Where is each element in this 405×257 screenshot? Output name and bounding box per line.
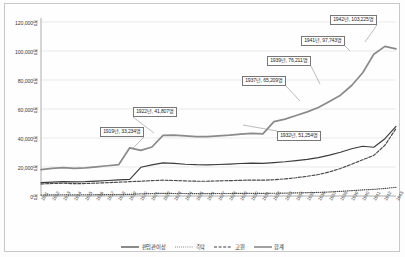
legend-item[interactable]: 고원 xyxy=(214,243,244,251)
legend-swatch-solid-thick xyxy=(254,244,272,250)
annotation-1939: 1939년, 76,211명 xyxy=(267,56,311,66)
annotation-leader xyxy=(133,137,144,148)
annotation-leader xyxy=(286,86,300,101)
legend-label: 판임관이상 xyxy=(142,243,167,251)
legend-swatch-dotted xyxy=(175,244,193,250)
annotation-1922: 1922년, 41,807명 xyxy=(133,107,177,117)
series-line xyxy=(41,129,396,184)
annotation-1919: 1919년, 33,234명 xyxy=(100,127,144,137)
legend-swatch-dashed xyxy=(214,244,232,250)
legend-swatch-solid-thin xyxy=(121,244,139,250)
legend-item[interactable]: 합계 xyxy=(254,243,284,251)
annotation-leader xyxy=(243,125,277,131)
legend-item[interactable]: 촉탁 xyxy=(175,243,205,251)
chart-container: 0명20,000명40,000명60,000명80,000명100,000명12… xyxy=(0,0,405,257)
legend-label: 고원 xyxy=(235,243,245,251)
annotation-leader xyxy=(311,66,320,84)
annotation-1941: 1941년, 97,743명 xyxy=(301,36,345,46)
chart-legend: 판임관이상촉탁고원합계 xyxy=(0,243,405,251)
annotation-leader xyxy=(345,46,350,51)
series-line xyxy=(41,126,396,182)
annotation-1942: 1942년, 103,225명 xyxy=(330,15,377,25)
legend-label: 촉탁 xyxy=(196,243,206,251)
annotation-1937: 1937년, 65,209명 xyxy=(242,76,286,86)
legend-label: 합계 xyxy=(274,243,284,251)
legend-item[interactable]: 판임관이상 xyxy=(121,243,166,251)
annotation-1932: 1932년, 51,254명 xyxy=(277,131,321,141)
series-line xyxy=(41,187,396,195)
series-lines xyxy=(41,46,396,195)
annotation-leader xyxy=(365,25,377,42)
